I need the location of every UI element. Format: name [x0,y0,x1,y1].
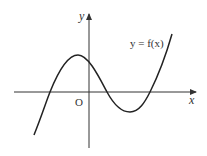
x-axis-label: x [188,93,195,107]
y-axis-label: y [78,9,85,23]
function-graph: y x O y = f(x) [0,0,207,156]
function-label: y = f(x) [130,37,164,50]
curve-f [34,34,172,135]
origin-label: O [75,96,83,108]
